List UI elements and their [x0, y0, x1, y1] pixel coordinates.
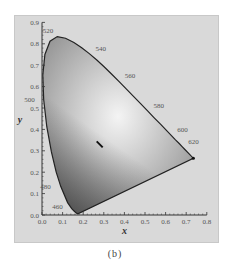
x-tick-label: 0.2 — [79, 218, 88, 226]
wavelength-label-500: 500 — [24, 96, 35, 104]
wavelength-label-520: 520 — [43, 27, 54, 35]
chromaticity-figure: 0.00.10.20.30.40.50.60.70.80.00.10.20.30… — [0, 0, 230, 270]
wavelength-label-620: 620 — [188, 138, 199, 146]
wavelength-label-480: 480 — [40, 183, 51, 191]
x-tick-label: 0.6 — [161, 218, 170, 226]
red-endpoint-dot — [192, 157, 195, 160]
x-tick-label: 0.0 — [38, 218, 47, 226]
y-tick-label: 0.3 — [30, 147, 39, 155]
chromaticity-plot: 0.00.10.20.30.40.50.60.70.80.00.10.20.30… — [0, 0, 230, 245]
y-tick-label: 0.7 — [30, 62, 39, 70]
wavelength-label-560: 560 — [125, 72, 136, 80]
wavelength-label-460: 460 — [52, 203, 63, 211]
x-tick-label: 0.7 — [182, 218, 191, 226]
y-tick-label: 0.8 — [30, 40, 39, 48]
wavelength-label-580: 580 — [153, 102, 164, 110]
x-tick-label: 0.5 — [141, 218, 150, 226]
y-tick-label: 0.6 — [30, 83, 39, 91]
y-tick-label: 0.9 — [30, 19, 39, 27]
y-tick-label: 0.0 — [30, 212, 39, 220]
x-tick-label: 0.3 — [99, 218, 108, 226]
y-tick-label: 0.5 — [30, 105, 39, 113]
y-tick-label: 0.2 — [30, 169, 39, 177]
wavelength-label-540: 540 — [95, 45, 106, 53]
x-tick-label: 0.1 — [58, 218, 67, 226]
y-axis-label: y — [17, 114, 23, 125]
y-tick-label: 0.1 — [30, 190, 39, 198]
figure-caption: (b) — [0, 248, 230, 259]
gamut-shade — [43, 37, 194, 214]
x-axis-label: x — [121, 225, 127, 236]
wavelength-label-600: 600 — [177, 126, 188, 134]
x-tick-label: 0.8 — [202, 218, 211, 226]
y-tick-label: 0.4 — [30, 126, 39, 134]
gamut-region — [43, 37, 195, 214]
